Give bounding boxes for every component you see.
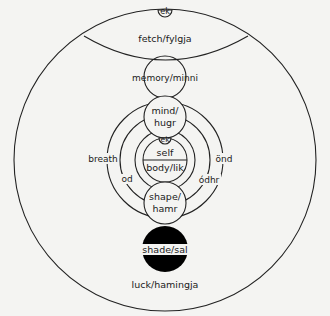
ek-top-label: ek (160, 7, 170, 16)
odhr-label: ódhr (199, 175, 220, 185)
mind-label-line2: hugr (154, 117, 176, 128)
soul-diagram: ek fetch/fylgja memory/minni mind/ hugr … (0, 0, 330, 316)
luck-label: luck/hamingja (132, 279, 199, 290)
ek-self-label: ek (161, 135, 171, 144)
ond-label: önd (216, 154, 233, 164)
shape-label-line2: hamr (152, 203, 177, 214)
self-label: self (157, 147, 174, 158)
mind-label-line1: mind/ (151, 105, 179, 116)
shape-label-line1: shape/ (149, 191, 182, 202)
body-label: body/lik (146, 162, 184, 173)
shade-label: shade/sal (142, 244, 187, 255)
breath-label: breath (88, 154, 118, 164)
od-label: od (121, 174, 132, 184)
fetch-label: fetch/fylgja (138, 33, 191, 44)
memory-label: memory/minni (132, 73, 198, 83)
